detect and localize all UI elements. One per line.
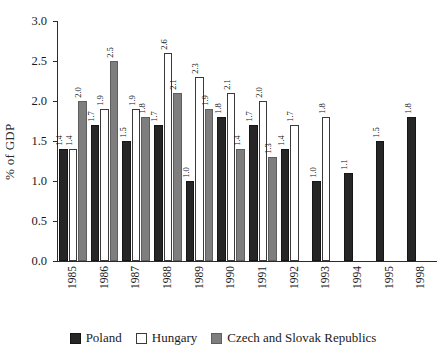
y-tick-label: 0.0 <box>17 255 47 268</box>
bar: 2.0 <box>259 101 268 261</box>
bar: 1.9 <box>100 109 109 261</box>
bar-value-label: 1.7 <box>286 111 295 122</box>
legend-label: Czech and Slovak Republics <box>227 330 376 346</box>
y-tick-label: 1.5 <box>17 135 47 148</box>
bar-chart: % of GDP 0.00.51.01.52.02.53.0 1.41.42.0… <box>0 0 446 360</box>
bar-value-label: 1.8 <box>213 103 222 114</box>
bar: 1.7 <box>249 125 258 261</box>
bar-value-label: 1.5 <box>118 127 127 138</box>
bar-value-label: 1.8 <box>403 103 412 114</box>
x-tick-label: 1993 <box>320 266 332 289</box>
bar-value-label: 1.0 <box>308 167 317 178</box>
bar-value-label: 1.7 <box>86 111 95 122</box>
x-tick-label: 1986 <box>99 266 111 289</box>
bar-value-label: 1.4 <box>64 135 73 146</box>
bar: 1.5 <box>376 141 385 261</box>
x-axis-line <box>57 261 437 262</box>
y-tick-label: 0.5 <box>17 215 47 228</box>
bar-value-label: 2.5 <box>105 47 114 58</box>
bar: 1.8 <box>322 117 331 261</box>
bar: 1.9 <box>132 109 141 261</box>
bar-value-label: 2.0 <box>254 87 263 98</box>
bar-value-label: 1.7 <box>150 111 159 122</box>
bar-value-label: 1.4 <box>55 135 64 146</box>
legend-label: Hungary <box>152 330 198 346</box>
bar: 1.4 <box>281 149 290 261</box>
x-tick-label: 1991 <box>257 266 269 289</box>
legend-swatch-czech <box>211 333 222 344</box>
bar: 1.8 <box>217 117 226 261</box>
legend-swatch-hungary <box>136 333 147 344</box>
chart-legend: PolandHungaryCzech and Slovak Republics <box>0 330 446 346</box>
bar: 1.4 <box>59 149 68 261</box>
bar-value-label: 2.6 <box>159 39 168 50</box>
y-tick-label: 2.0 <box>17 95 47 108</box>
bar-value-label: 1.9 <box>200 95 209 106</box>
bar-value-label: 1.8 <box>137 103 146 114</box>
y-tick-label: 1.0 <box>17 175 47 188</box>
bar: 2.5 <box>110 61 119 261</box>
bar-value-label: 2.0 <box>74 87 83 98</box>
legend-entry-hungary: Hungary <box>136 330 198 346</box>
bar: 2.1 <box>227 93 236 261</box>
x-tick-label: 1992 <box>289 266 301 289</box>
bar: 2.0 <box>78 101 87 261</box>
x-tick-label: 1988 <box>162 266 174 289</box>
bar: 1.1 <box>344 173 353 261</box>
bar-value-label: 1.7 <box>245 111 254 122</box>
x-tick-label: 1990 <box>225 266 237 289</box>
y-tick-label: 2.5 <box>17 55 47 68</box>
bar: 1.4 <box>236 149 245 261</box>
bar: 1.7 <box>154 125 163 261</box>
plot-area: 1.41.42.01.71.92.51.51.91.81.72.62.11.02… <box>57 21 437 261</box>
bar-value-label: 1.4 <box>232 135 241 146</box>
legend-entry-czech: Czech and Slovak Republics <box>211 330 376 346</box>
bar: 1.0 <box>312 181 321 261</box>
bar-value-label: 1.3 <box>264 143 273 154</box>
bar: 1.0 <box>186 181 195 261</box>
bar: 1.8 <box>141 117 150 261</box>
y-tick-label: 3.0 <box>17 15 47 28</box>
y-axis-title: % of GDP <box>2 92 22 212</box>
bar: 1.5 <box>122 141 131 261</box>
bar-value-label: 1.5 <box>371 127 380 138</box>
bar-value-label: 2.3 <box>191 63 200 74</box>
bar: 1.7 <box>290 125 299 261</box>
bar-value-label: 1.0 <box>181 167 190 178</box>
legend-swatch-poland <box>70 333 81 344</box>
x-tick-label: 1998 <box>415 266 427 289</box>
bar-value-label: 2.1 <box>169 79 178 90</box>
bar-value-label: 1.9 <box>128 95 137 106</box>
bar: 1.7 <box>91 125 100 261</box>
bar-value-label: 1.4 <box>276 135 285 146</box>
bar-value-label: 1.1 <box>340 159 349 170</box>
bar: 1.3 <box>268 157 277 261</box>
legend-entry-poland: Poland <box>70 330 122 346</box>
x-tick-label: 1995 <box>384 266 396 289</box>
legend-label: Poland <box>86 330 122 346</box>
bar: 1.9 <box>205 109 214 261</box>
x-tick-label: 1989 <box>194 266 206 289</box>
bar-value-label: 1.9 <box>96 95 105 106</box>
bar: 1.8 <box>407 117 416 261</box>
x-tick-label: 1985 <box>67 266 79 289</box>
x-tick-label: 1987 <box>130 266 142 289</box>
bar-value-label: 2.1 <box>223 79 232 90</box>
bar: 1.4 <box>69 149 78 261</box>
bar-value-label: 1.8 <box>318 103 327 114</box>
x-tick-label: 1994 <box>352 266 364 289</box>
